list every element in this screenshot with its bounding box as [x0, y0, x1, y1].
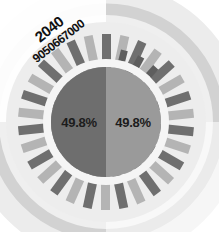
- pie-label-right: 49.8%: [115, 115, 151, 130]
- pie-label-left: 49.8%: [61, 115, 97, 130]
- radial-donut-chart: 49.8% 49.8% 2040 9050667000: [0, 0, 219, 232]
- chart-canvas: 49.8% 49.8% 2040 9050667000: [0, 0, 219, 232]
